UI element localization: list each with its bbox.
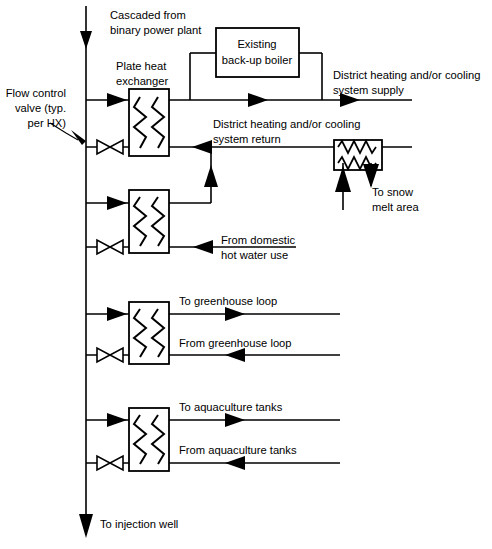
schematic-canvas: Cascaded from binary power plant Plate h… xyxy=(0,0,492,549)
label-plate-hx-line2: exchanger xyxy=(116,75,169,87)
label-to-greenhouse: To greenhouse loop xyxy=(179,295,277,307)
label-cascaded-line2: binary power plant xyxy=(110,24,202,36)
flow-arrow-from-aquaculture xyxy=(225,456,245,470)
label-from-aquaculture: From aquaculture tanks xyxy=(179,444,297,456)
cascaded-geothermal-diagram: Cascaded from binary power plant Plate h… xyxy=(0,0,492,549)
flow-control-valve-2[interactable] xyxy=(97,240,123,254)
label-return-line1: District heating and/or cooling xyxy=(213,118,360,130)
label-injection-well: To injection well xyxy=(100,518,178,530)
label-snow-melt-line1: To snow xyxy=(372,186,414,198)
label-supply-line1: District heating and/or cooling xyxy=(333,69,480,81)
label-boiler-line1: Existing xyxy=(237,38,276,50)
label-from-greenhouse: From greenhouse loop xyxy=(179,337,292,349)
flow-arrow-return-in xyxy=(192,140,212,154)
flow-control-valve-4[interactable] xyxy=(97,456,123,470)
label-flow-valve-line3: per HX) xyxy=(27,117,66,129)
label-flow-valve-line2: valve (typ. xyxy=(15,102,66,114)
main-geothermal-riser xyxy=(79,6,93,538)
backup-boiler[interactable] xyxy=(216,28,299,77)
flow-arrow-hx3-inlet xyxy=(107,307,127,321)
flow-arrow-hx1-inlet xyxy=(107,93,127,107)
flow-arrow-hx2-inlet xyxy=(107,196,127,210)
flow-control-valve-1[interactable] xyxy=(97,140,123,154)
label-flow-valve-line1: Flow control xyxy=(6,87,66,99)
flow-arrow-hx4-inlet xyxy=(107,413,127,427)
flow-arrow-supply-mid xyxy=(248,93,268,107)
flow-arrow-from-greenhouse xyxy=(225,348,245,362)
hx4-group xyxy=(86,408,340,471)
flow-control-valve-3[interactable] xyxy=(97,348,123,362)
flow-arrow-to-greenhouse xyxy=(225,307,245,321)
flow-arrow-cascaded-inlet xyxy=(80,31,92,49)
label-plate-hx-line1: Plate heat xyxy=(116,60,167,72)
label-domestic-line1: From domestic xyxy=(221,234,295,246)
flow-arrow-domestic-return xyxy=(193,240,213,254)
plate-heat-exchanger-4[interactable] xyxy=(129,408,169,471)
label-return-line2: system return xyxy=(213,133,281,145)
label-cascaded-line1: Cascaded from xyxy=(110,9,186,21)
flow-arrow-injection-well xyxy=(79,514,93,538)
plate-heat-exchanger-2[interactable] xyxy=(129,190,169,253)
flow-arrow-snowmelt-supply xyxy=(363,164,379,188)
plate-heat-exchanger-1[interactable] xyxy=(129,89,169,156)
label-domestic-line2: hot water use xyxy=(221,249,288,261)
label-boiler-line2: back-up boiler xyxy=(222,54,293,66)
flow-arrow-to-aquaculture xyxy=(225,413,245,427)
label-supply-line2: system supply xyxy=(333,84,404,96)
hx3-group xyxy=(86,302,340,364)
return-header-group xyxy=(169,140,412,210)
label-snow-melt-line2: melt area xyxy=(372,201,419,213)
flow-arrow-hx2-to-return xyxy=(204,165,218,187)
plate-heat-exchanger-3[interactable] xyxy=(129,302,169,364)
label-to-aquaculture: To aquaculture tanks xyxy=(179,401,283,413)
